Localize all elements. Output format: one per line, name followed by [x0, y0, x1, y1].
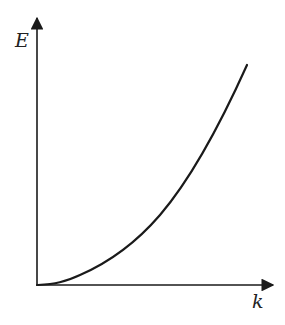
- dispersion-curve: [38, 65, 247, 285]
- chart: E k: [0, 0, 285, 325]
- x-axis-label: k: [252, 290, 264, 312]
- y-axis-label: E: [14, 29, 29, 51]
